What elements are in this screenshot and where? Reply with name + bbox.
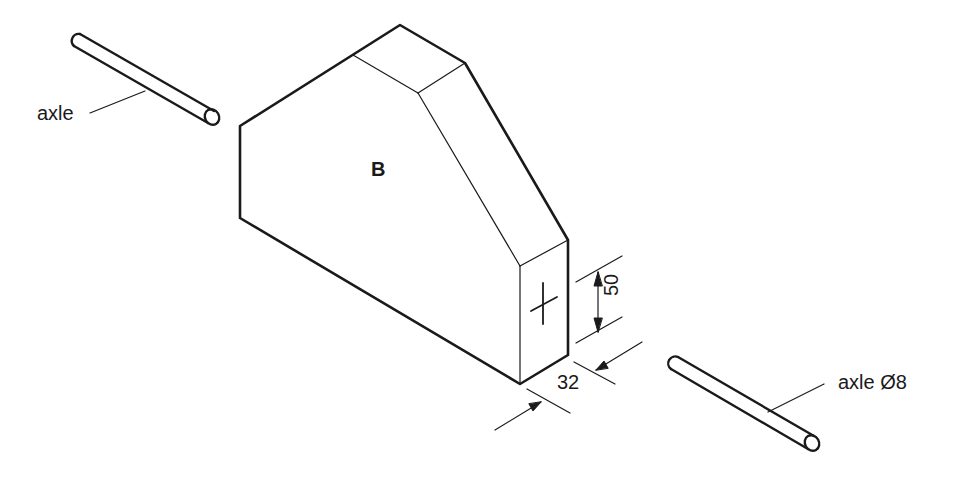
dimension-32-label: 32 bbox=[557, 371, 579, 394]
part-label: B bbox=[371, 158, 385, 181]
isometric-drawing bbox=[0, 0, 964, 487]
block-b bbox=[240, 25, 568, 384]
right-axle bbox=[668, 356, 824, 453]
dimension-50-label: 50 bbox=[600, 274, 623, 296]
axle-right-label: axle Ø8 bbox=[838, 371, 907, 394]
dimension-50 bbox=[576, 256, 622, 343]
axle-left-label: axle bbox=[37, 102, 74, 125]
left-axle bbox=[72, 34, 222, 128]
